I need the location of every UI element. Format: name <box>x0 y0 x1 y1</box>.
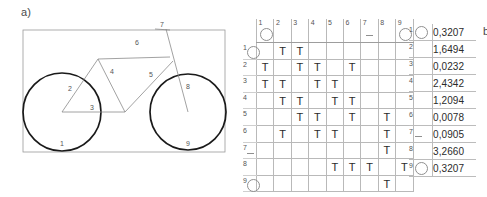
matrix-col-header-8: 8 <box>378 19 395 43</box>
matrix-row: 3TTTT <box>243 76 413 93</box>
down-tube <box>125 61 173 112</box>
row-header-number: 8 <box>243 160 247 168</box>
matrix-cell-mark: T <box>326 159 343 176</box>
matrix-corner-cell <box>243 19 257 43</box>
matrix-cell-mark: T <box>361 159 378 176</box>
matrix-col-header-5: 5 <box>326 19 343 43</box>
bike-label-9: 9 <box>186 140 190 147</box>
matrix-cell-empty <box>361 109 378 126</box>
col-header-number: 6 <box>345 19 349 27</box>
col-header-number: 1 <box>259 19 263 27</box>
values-number: 1,6494 <box>433 41 477 58</box>
matrix-cell-empty <box>309 175 326 192</box>
values-row: 21,6494 <box>409 41 476 58</box>
matrix-cell-mark: T <box>257 59 274 76</box>
values-row: 90,3207 <box>409 160 476 177</box>
matrix-cell-mark: T <box>378 109 395 126</box>
values-row-label-1: 1 <box>409 24 433 41</box>
matrix-cell-mark: T <box>326 76 343 93</box>
matrix-cell-empty <box>291 142 308 159</box>
matrix-cell-mark: T <box>309 125 326 142</box>
matrix-cell-empty <box>361 175 378 192</box>
bike-label-3: 3 <box>90 104 94 111</box>
bicycle-bounding-box <box>23 30 225 152</box>
values-row-number: 4 <box>409 77 413 85</box>
matrix-cell-empty <box>274 175 291 192</box>
matrix-cell-diagonal <box>291 76 308 93</box>
matrix-row-header-6: 6 <box>243 125 257 142</box>
bike-label-2: 2 <box>68 85 72 92</box>
values-row-label-5: 5 <box>409 92 433 109</box>
figure-root: a) 1 2 3 4 5 <box>0 0 487 197</box>
matrix-row-header-8: 8 <box>243 159 257 176</box>
adjacency-matrix: 123456789 1TT2TTTT3TTTT4TTTT5TTTT6TTTT7T… <box>243 19 414 192</box>
matrix-cell-mark: T <box>291 109 308 126</box>
matrix-cell-diagonal <box>343 125 360 142</box>
col-header-number: 5 <box>328 19 332 27</box>
matrix-cell-mark: T <box>343 92 360 109</box>
bike-label-5: 5 <box>149 71 153 78</box>
matrix-row-header-2: 2 <box>243 59 257 76</box>
values-number: 0,0905 <box>433 126 477 143</box>
matrix-cell-mark: T <box>291 59 308 76</box>
matrix-cell-empty <box>378 76 395 93</box>
matrix-cell-empty <box>274 109 291 126</box>
matrix-cell-empty <box>378 43 395 60</box>
matrix-cell-empty <box>274 159 291 176</box>
values-table: 10,320721,649430,023242,434251,209460,00… <box>409 24 476 177</box>
matrix-cell-empty <box>361 59 378 76</box>
matrix-cell-mark: T <box>274 43 291 60</box>
values-number: 1,2094 <box>433 92 477 109</box>
matrix-col-header-4: 4 <box>309 19 326 43</box>
values-row-number: 7 <box>409 128 413 136</box>
values-marker-circle <box>415 162 428 175</box>
matrix-cell-empty <box>361 43 378 60</box>
values-row-label-6: 6 <box>409 109 433 126</box>
row-header-number: 5 <box>243 110 247 118</box>
matrix-row: 6TTTT <box>243 125 413 142</box>
matrix-cell-mark: T <box>257 76 274 93</box>
matrix-cell-empty <box>291 175 308 192</box>
matrix-cell-diagonal <box>309 92 326 109</box>
matrix-row: 9T <box>243 175 413 192</box>
row-header-number: 6 <box>243 127 247 135</box>
col-header-number: 8 <box>380 19 384 27</box>
values-body: 10,320721,649430,023242,434251,209460,00… <box>409 24 476 177</box>
panel-c-values: c) 10,320721,649430,023242,434251,209460… <box>409 24 476 177</box>
values-number: 3,2660 <box>433 143 477 160</box>
row-header-number: 4 <box>243 94 247 102</box>
matrix-cell-mark: T <box>343 159 360 176</box>
row-header-number: 2 <box>243 61 247 69</box>
matrix-cell-empty <box>309 43 326 60</box>
matrix-cell-empty <box>326 43 343 60</box>
values-row-label-4: 4 <box>409 75 433 92</box>
matrix-cell-mark: T <box>378 142 395 159</box>
matrix-cell-empty <box>326 59 343 76</box>
matrix-cell-mark: T <box>309 59 326 76</box>
bike-label-8: 8 <box>186 83 190 90</box>
matrix-row-header-1: 1 <box>243 43 257 60</box>
matrix-cell-empty <box>361 92 378 109</box>
panel-b-label: b) <box>483 25 487 37</box>
matrix-row-header-9: 9 <box>243 175 257 192</box>
matrix-cell-empty <box>361 76 378 93</box>
matrix-col-header-2: 2 <box>274 19 291 43</box>
row-header-number: 3 <box>243 77 247 85</box>
matrix-cell-empty <box>291 159 308 176</box>
values-row-label-9: 9 <box>409 160 433 177</box>
col-header-number: 9 <box>398 19 402 27</box>
matrix-cell-diagonal <box>274 59 291 76</box>
matrix-cell-mark: T <box>309 76 326 93</box>
matrix-cell-empty <box>257 159 274 176</box>
matrix-body: 1TT2TTTT3TTTT4TTTT5TTTT6TTTT7T8TTTT9T <box>243 43 413 192</box>
values-row: 70,0905 <box>409 126 476 143</box>
matrix-row-header-3: 3 <box>243 76 257 93</box>
matrix-cell-mark: T <box>274 92 291 109</box>
matrix-cell-empty <box>378 92 395 109</box>
values-number: 2,4342 <box>433 75 477 92</box>
matrix-cell-empty <box>326 175 343 192</box>
matrix-cell-empty <box>343 175 360 192</box>
matrix-cell-mark: T <box>343 59 360 76</box>
bike-label-1: 1 <box>60 140 64 147</box>
matrix-cell-empty <box>326 142 343 159</box>
